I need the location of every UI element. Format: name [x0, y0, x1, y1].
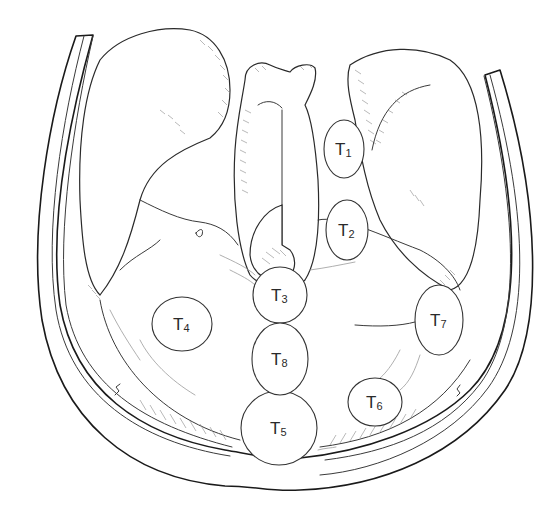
trocar-port-t7: T7	[415, 285, 463, 355]
trocar-port-t2: T2	[326, 200, 368, 260]
left-organ	[80, 29, 230, 299]
trocar-port-t6: T6	[348, 378, 402, 426]
trocar-port-t4: T4	[152, 297, 212, 351]
trocar-port-t8: T8	[252, 323, 308, 395]
right-organ	[348, 49, 482, 290]
trocar-port-t3: T3	[253, 267, 307, 323]
central-organ	[234, 63, 318, 287]
diagram-canvas: T1T2T3T4T5T6T7T8	[0, 0, 555, 518]
abdominal-trocar-diagram: T1T2T3T4T5T6T7T8	[0, 0, 555, 518]
trocar-port-t5: T5	[241, 391, 317, 465]
trocar-port-t1: T1	[324, 120, 364, 178]
